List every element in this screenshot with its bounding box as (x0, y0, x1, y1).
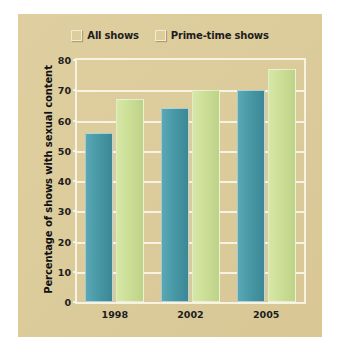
y-axis-title-text: Percentage of shows with sexual content (43, 65, 54, 294)
legend-swatch-all-shows (71, 30, 82, 41)
legend-item-all-shows: All shows (71, 30, 138, 41)
bar-face (192, 90, 220, 302)
x-axis-tick-label: 2002 (177, 309, 203, 320)
bar-group: 2002 (161, 60, 220, 302)
legend-swatch-prime-time-shows (155, 30, 166, 41)
y-axis-tick-label: 50 (58, 145, 71, 156)
bar (192, 90, 220, 302)
bar (161, 108, 189, 302)
bar-groups: 199820022005 (77, 60, 304, 302)
bar-group: 2005 (237, 60, 296, 302)
y-axis-tick-label: 70 (58, 85, 71, 96)
y-axis-tick-label: 20 (58, 236, 71, 247)
plot-area: 01020304050607080 199820022005 (75, 58, 306, 302)
y-axis-tick-label: 80 (58, 55, 71, 66)
chart-figure: All shows Prime-time shows Percentage of… (18, 14, 322, 337)
legend-item-prime-time-shows: Prime-time shows (155, 30, 269, 41)
bar (116, 99, 144, 302)
bar-face (268, 69, 296, 302)
bar (85, 133, 113, 302)
bar-face (161, 108, 189, 302)
bar-face (237, 90, 265, 302)
legend-label-all-shows: All shows (87, 30, 138, 41)
y-axis-tick-label: 30 (58, 206, 71, 217)
y-axis-tick-label: 40 (58, 176, 71, 187)
bar-face (116, 99, 144, 302)
bar (268, 69, 296, 302)
x-axis-tick-label: 1998 (102, 309, 128, 320)
bar-face (85, 133, 113, 302)
y-axis-tick-label: 60 (58, 115, 71, 126)
y-axis-tick-label: 10 (58, 266, 71, 277)
y-axis-title: Percentage of shows with sexual content (40, 58, 56, 300)
chart-legend: All shows Prime-time shows (18, 30, 322, 41)
legend-label-prime-time-shows: Prime-time shows (171, 30, 269, 41)
bar (237, 90, 265, 302)
bar-group: 1998 (85, 60, 144, 302)
y-axis-tick-label: 0 (64, 297, 71, 308)
x-axis-line (75, 302, 306, 304)
x-axis-tick-label: 2005 (253, 309, 279, 320)
